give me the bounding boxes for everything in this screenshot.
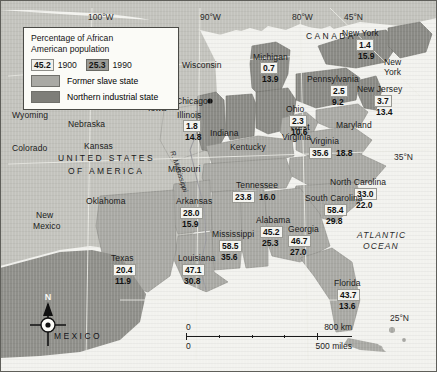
legend-label-former-slave-state: Former slave state	[67, 76, 138, 86]
state-label-kentucky: Kentucky	[230, 142, 266, 152]
island-speck	[402, 338, 406, 342]
state-label-missouri: Missouri	[168, 164, 200, 174]
state-values-texas: 20.4 11.9	[113, 264, 136, 286]
state-label-texas: Texas	[111, 253, 134, 263]
legend-title-line2: American population	[31, 44, 171, 55]
city-dot-chicago	[207, 98, 212, 103]
state-values-south-carolina: 58.4 29.8	[324, 204, 347, 226]
state-label-new-york-state-line1: New	[384, 57, 401, 67]
city-label-chicago: Chicago	[176, 96, 208, 106]
value-1900-michigan: 0.7	[260, 62, 278, 74]
coordinate-label-45n: 45°N	[344, 12, 363, 22]
value-1990-georgia: 27.0	[288, 247, 309, 257]
state-label-mississippi: Mississippi	[212, 229, 254, 239]
state-values-ohio: 2.3 10.6	[289, 115, 310, 137]
island-speck	[389, 327, 395, 333]
state-label-illinois: Illinois	[177, 110, 201, 120]
value-1900-texas: 20.4	[113, 264, 136, 276]
state-label-new-mexico-line2: Mexico	[33, 221, 61, 231]
state-label-new-mexico-line1: New	[36, 210, 53, 220]
state-label-new-york: New York	[342, 28, 379, 38]
value-1900-pennsylvania: 2.5	[330, 85, 348, 97]
state-label-new-york-state-line2: York	[384, 67, 401, 77]
country-label-usa-line2: OF AMERICA	[68, 165, 144, 177]
value-1990-new-york: 15.9	[356, 51, 377, 61]
scale-km-start: 0	[186, 322, 191, 332]
region-new-england	[388, 22, 432, 58]
state-label-pennsylvania: Pennsylvania	[307, 74, 359, 84]
legend-swatch-former-slave-state	[31, 75, 60, 87]
value-1900-south-carolina: 58.4	[324, 204, 347, 216]
legend-year-key: 45.2 1900 25.3 1990	[31, 59, 171, 71]
lake-michigan	[234, 48, 252, 96]
value-1990-alabama: 25.3	[260, 238, 281, 248]
scale-bar-graphic	[186, 333, 352, 340]
legend-year-1990: 1990	[113, 60, 132, 70]
value-1990-texas: 11.9	[113, 276, 133, 286]
state-label-colorado: Colorado	[12, 143, 47, 153]
value-1990-michigan: 13.9	[260, 74, 281, 84]
state-label-kansas: Kansas	[84, 141, 113, 151]
map-legend: Percentage of African American populatio…	[23, 27, 179, 110]
state-label-alabama: Alabama	[256, 215, 290, 225]
map-figure: 100°W 90°W 80°W 45°N 35°N 25°N CANADA UN…	[0, 0, 437, 372]
value-1990-tennessee: 16.0	[257, 192, 278, 202]
legend-year-1900: 1900	[58, 60, 77, 70]
state-values-mississippi: 58.5 35.6	[219, 240, 242, 262]
scale-miles-end: 500 miles	[316, 341, 352, 351]
state-label-wisconsin: Wisconsin	[182, 60, 222, 70]
value-1990-south-carolina: 29.8	[324, 216, 345, 226]
scale-row-km: 0 800 km	[186, 322, 352, 332]
scale-miles-start: 0	[186, 341, 191, 351]
value-1990-florida: 13.6	[337, 301, 358, 311]
value-1900-florida: 43.7	[337, 289, 360, 301]
state-values-louisiana: 47.1 30.8	[182, 264, 205, 286]
scale-km-end: 800 km	[324, 322, 352, 332]
value-1900-mississippi: 58.5	[219, 240, 242, 252]
state-label-wyoming: Wyoming	[12, 110, 48, 120]
value-1900-louisiana: 47.1	[182, 264, 205, 276]
state-values-tennessee: 23.8 16.0	[232, 191, 302, 203]
value-1990-pennsylvania: 9.2	[330, 97, 346, 107]
state-label-arkansas: Arkansas	[176, 196, 212, 206]
state-label-ohio: Ohio	[286, 104, 304, 114]
value-1990-mississippi: 35.6	[219, 252, 240, 262]
state-values-arkansas: 28.0 15.9	[180, 207, 203, 229]
value-1990-new-jersey: 13.4	[374, 107, 395, 117]
state-label-nebraska: Nebraska	[68, 119, 105, 129]
value-1900-virginia: 35.6	[309, 147, 332, 159]
value-1990-illinois: 14.8	[183, 132, 204, 142]
coordinate-label-90w: 90°W	[200, 12, 221, 22]
state-label-north-carolina: North Carolina	[330, 177, 386, 187]
country-label-usa-line1: UNITED STATES	[58, 152, 155, 164]
state-label-indiana: Indiana	[210, 128, 239, 138]
value-1900-alabama: 45.2	[260, 226, 283, 238]
coordinate-label-80w: 80°W	[292, 12, 313, 22]
coordinate-label-100w: 100°W	[88, 12, 114, 22]
state-values-florida: 43.7 13.6	[337, 289, 360, 311]
legend-value-1990: 25.3	[86, 59, 109, 71]
legend-key-former-slave-state: Former slave state	[31, 75, 171, 87]
value-1900-arkansas: 28.0	[180, 207, 203, 219]
state-values-pennsylvania: 2.5 9.2	[330, 85, 348, 107]
state-label-michigan: Michigan	[253, 52, 288, 62]
value-1900-georgia: 46.7	[288, 235, 311, 247]
coordinate-label-35n: 35°N	[394, 152, 413, 162]
ocean-label-line1: ATLANTIC	[357, 230, 406, 241]
map-scale-bar: 0 800 km 0 500 miles	[186, 322, 352, 351]
value-1990-arkansas: 15.9	[180, 219, 201, 229]
state-label-maryland: Maryland	[336, 120, 372, 130]
value-1990-louisiana: 30.8	[182, 276, 203, 286]
value-1990-ohio: 10.6	[289, 127, 310, 137]
state-values-alabama: 45.2 25.3	[260, 226, 283, 248]
state-values-illinois: 1.8 14.8	[183, 120, 204, 142]
state-values-new-york: 1.4 15.9	[356, 39, 377, 61]
state-label-tennessee: Tennessee	[236, 180, 278, 190]
state-label-georgia: Georgia	[288, 224, 319, 234]
state-label-virginia: Virginia	[310, 136, 339, 146]
state-values-new-jersey: 3.7 13.4	[374, 95, 395, 117]
compass-rose: N	[26, 292, 70, 350]
legend-label-northern-industrial-state: Northern industrial state	[67, 92, 158, 102]
compass-north-label: N	[26, 292, 70, 302]
value-1900-ohio: 2.3	[289, 115, 307, 127]
